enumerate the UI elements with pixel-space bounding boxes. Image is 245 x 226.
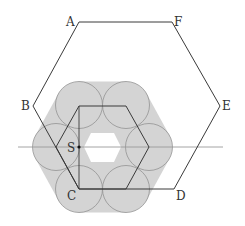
circle-top-right — [103, 82, 150, 129]
label-e: E — [222, 99, 231, 113]
center-hole — [84, 133, 121, 162]
point-s — [77, 145, 80, 148]
label-c: C — [67, 189, 76, 203]
label-s: S — [67, 141, 75, 155]
label-b: B — [21, 99, 30, 113]
label-f: F — [174, 15, 182, 29]
label-a: A — [65, 15, 75, 29]
hexagon-diagram: A F B E C D S — [0, 0, 245, 226]
label-d: D — [176, 189, 186, 203]
